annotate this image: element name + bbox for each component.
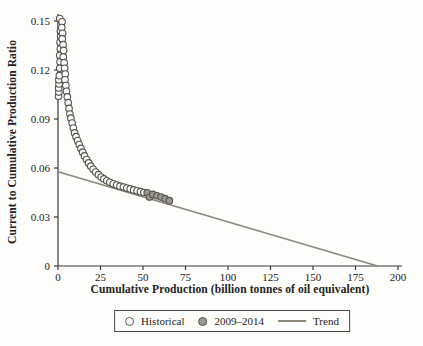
x-tick-label: 50 [138, 271, 150, 283]
recent-point [166, 197, 173, 204]
x-tick-label: 25 [95, 271, 107, 283]
legend-label-2009-2014: 2009–2014 [215, 315, 265, 327]
y-tick-label: 0.03 [31, 211, 51, 223]
x-axis-title: Cumulative Production (billion tonnes of… [58, 283, 402, 295]
x-tick-label: 125 [262, 271, 279, 283]
y-tick-label: 0.12 [31, 64, 50, 76]
legend-label-historical: Historical [141, 315, 184, 327]
historical-point [60, 47, 67, 54]
filled-circle-marker-icon [199, 317, 208, 326]
legend-entry-trend: Trend [278, 315, 339, 327]
trend-line [58, 172, 378, 266]
legend-entry-historical: Historical [125, 315, 184, 327]
x-tick-label: 175 [347, 271, 364, 283]
x-tick-label: 150 [305, 271, 322, 283]
figure-container: 00.030.060.090.120.150255075100125150175… [0, 0, 423, 346]
open-circle-marker-icon [125, 317, 134, 326]
trend-line-marker-icon [278, 320, 306, 322]
legend-entry-2009-2014: 2009–2014 [199, 315, 265, 327]
y-tick-label: 0.15 [31, 15, 51, 27]
y-tick-label: 0.06 [31, 162, 51, 174]
legend-label-trend: Trend [313, 315, 339, 327]
y-tick-label: 0 [45, 260, 51, 272]
y-axis-title: Current to Cumulative Production Ratio [6, 22, 22, 262]
x-tick-label: 100 [220, 271, 237, 283]
x-tick-label: 0 [55, 271, 61, 283]
legend-box: Historical 2009–2014 Trend [114, 310, 350, 332]
x-tick-label: 75 [180, 271, 192, 283]
y-tick-label: 0.09 [31, 113, 51, 125]
x-tick-label: 200 [390, 271, 407, 283]
